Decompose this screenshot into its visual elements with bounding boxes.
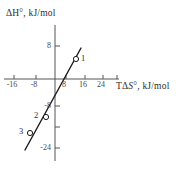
y-tick-label--24: -24	[33, 143, 51, 152]
best-fit-line	[25, 48, 81, 150]
x-tick-label-8: 8	[60, 80, 68, 89]
y-tick-label--8: -8	[38, 101, 51, 110]
x-tick-label--16: -16	[2, 80, 22, 89]
data-point-3	[27, 130, 32, 135]
data-point-label-2: 2	[34, 110, 38, 120]
y-tick-label-8: 8	[42, 41, 51, 50]
x-tick-label-24: 24	[95, 80, 107, 89]
x-tick-label--8: -8	[26, 80, 42, 89]
thermodynamics-scatter-chart: ΔH°, kJ/mol TΔS°, kJ/mol -16 -8 8 16 24	[0, 0, 185, 169]
data-point-label-3: 3	[19, 126, 23, 136]
data-point-label-1: 1	[81, 53, 85, 63]
data-point-1	[73, 56, 78, 61]
data-point-2	[43, 114, 48, 119]
y-axis-ticks	[55, 46, 60, 148]
x-tick-label-16: 16	[77, 80, 89, 89]
